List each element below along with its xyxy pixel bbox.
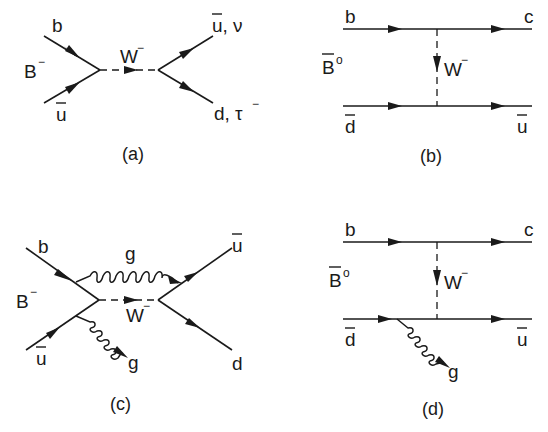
label-dbar: d [345, 116, 356, 137]
label-d: d [232, 353, 243, 374]
label-b: b [38, 236, 49, 257]
panel-d: b c B o W − d u g (d) [329, 219, 534, 419]
arrow-icon [433, 270, 441, 286]
label-gluon: g [125, 243, 136, 264]
label-ubar: u [517, 116, 528, 137]
arrow-icon [179, 81, 194, 92]
caption-b: (b) [420, 146, 442, 166]
arrow-icon [388, 102, 402, 110]
label-c: c [524, 6, 534, 27]
label-ubar: u [36, 348, 47, 369]
arrow-icon [168, 276, 182, 284]
label-w: W [120, 46, 138, 67]
caption-a: (a) [122, 144, 144, 164]
label-w: W [126, 305, 144, 326]
panel-a: b B − u W − u, ν d, τ − (a) [24, 14, 259, 164]
label-dbar: d [345, 329, 356, 350]
ubar-quark-line [26, 300, 99, 350]
arrow-icon [491, 25, 505, 33]
label-meson-charge: − [30, 285, 37, 299]
arrow-icon [65, 45, 80, 58]
label-meson-charge: o [336, 53, 343, 67]
label-w-charge: − [143, 299, 150, 313]
label-gluon: g [448, 361, 459, 382]
label-b: b [345, 219, 356, 240]
label-w: W [444, 59, 462, 80]
caption-d: (d) [422, 399, 444, 419]
label-ubar-nu: u, ν [212, 15, 243, 36]
caption-c: (c) [110, 394, 131, 414]
label-w-charge: − [137, 41, 144, 55]
label-meson: B [16, 291, 29, 312]
label-b: b [345, 6, 356, 27]
label-d-tau: d, τ [214, 103, 243, 124]
arrow-icon [65, 82, 80, 94]
label-ubar: u [232, 235, 243, 256]
arrow-icon [378, 315, 392, 323]
label-meson-charge: o [343, 266, 350, 280]
arrow-icon [113, 346, 128, 358]
panel-b: b c B o W − d u (b) [322, 6, 534, 166]
label-meson: B [322, 57, 335, 78]
label-tau-charge: − [252, 97, 259, 111]
arrow-icon [46, 327, 60, 339]
arrow-icon [388, 238, 402, 246]
label-meson: B [24, 61, 37, 82]
label-ubar: u [56, 104, 67, 125]
label-w-charge: − [461, 53, 468, 67]
arrow-icon [491, 102, 505, 110]
arrow-icon [433, 56, 441, 72]
arrow-icon [124, 66, 138, 74]
panel-c: b B − u g W − g u d (c) [16, 234, 243, 414]
gluon-emission-line [397, 319, 444, 365]
label-meson-charge: − [38, 55, 45, 69]
label-b: b [52, 15, 63, 36]
label-c: c [524, 219, 534, 240]
label-w-charge: − [461, 266, 468, 280]
gluon-exchange-line [76, 272, 178, 283]
label-w: W [444, 272, 462, 293]
arrow-icon [491, 315, 505, 323]
label-gluon: g [128, 352, 139, 373]
arrow-icon [179, 48, 194, 59]
arrow-icon [388, 25, 402, 33]
arrow-icon [124, 296, 138, 304]
arrow-icon [491, 238, 505, 246]
label-ubar: u [517, 329, 528, 350]
feynman-diagrams-figure: b B − u W − u, ν d, τ − (a) b c B o W − … [0, 0, 548, 432]
label-meson: B [329, 270, 342, 291]
